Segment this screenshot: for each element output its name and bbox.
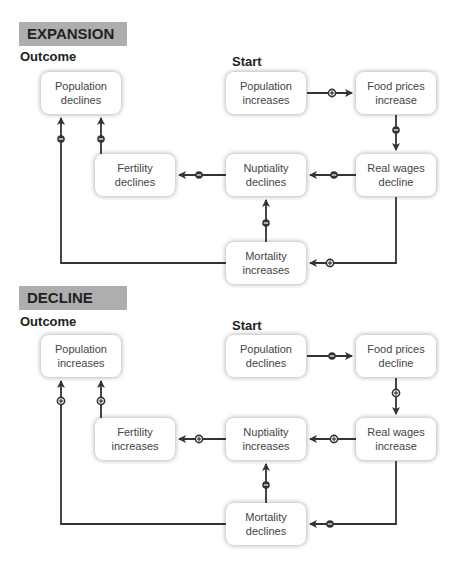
minus-sign-icon: [330, 171, 338, 179]
minus-sign-icon: [326, 520, 334, 528]
plus-sign-icon: [57, 397, 64, 404]
minus-sign-icon: [57, 135, 65, 143]
minus-sign-icon: [392, 126, 400, 134]
connector-lines: [0, 0, 459, 570]
plus-sign-icon: [97, 397, 104, 404]
minus-sign-icon: [97, 135, 105, 143]
minus-sign-icon: [195, 171, 203, 179]
minus-sign-icon: [262, 219, 270, 227]
plus-sign-icon: [392, 389, 399, 396]
plus-sign-icon: [326, 259, 333, 266]
plus-sign-icon: [195, 435, 202, 442]
minus-sign-icon: [262, 481, 270, 489]
plus-sign-icon: [328, 89, 335, 96]
minus-sign-icon: [328, 352, 336, 360]
plus-sign-icon: [330, 435, 337, 442]
